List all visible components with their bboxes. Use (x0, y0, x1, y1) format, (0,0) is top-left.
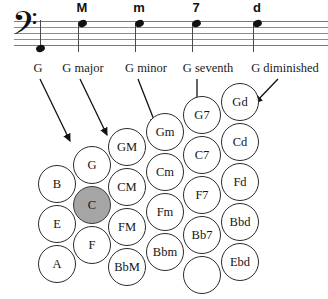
chord-button-bb7[interactable]: Bb7 (183, 216, 221, 254)
chord-button-f[interactable]: F (73, 226, 111, 264)
chord-button-eb7[interactable] (183, 256, 221, 294)
chord-button-cd[interactable]: Cd (221, 123, 259, 161)
accordion-chord-chart: 𝄢 M m 7 d G G major (0, 0, 328, 299)
chord-button-grid: B E A G C F GM CM FM BbM Gm Cm Fm Bbm G7… (0, 0, 328, 299)
chord-button-fd[interactable]: Fd (221, 163, 259, 201)
chord-button-b[interactable]: B (38, 165, 76, 203)
chord-button-bbd[interactable]: Bbd (221, 203, 259, 241)
chord-button-bbm-minor[interactable]: Bbm (146, 233, 184, 271)
chord-button-f7[interactable]: F7 (183, 176, 221, 214)
chord-button-g[interactable]: G (73, 146, 111, 184)
chord-button-c[interactable]: C (73, 186, 111, 224)
chord-button-c7[interactable]: C7 (183, 136, 221, 174)
chord-button-cm-major[interactable]: CM (108, 168, 146, 206)
chord-button-ebd[interactable]: Ebd (221, 243, 259, 281)
chord-button-cm-minor[interactable]: Cm (146, 153, 184, 191)
chord-button-a[interactable]: A (38, 245, 76, 283)
chord-button-e[interactable]: E (38, 205, 76, 243)
chord-button-gm-major[interactable]: GM (108, 128, 146, 166)
chord-button-fm-major[interactable]: FM (108, 208, 146, 246)
chord-button-g7[interactable]: G7 (183, 96, 221, 134)
chord-button-gd[interactable]: Gd (221, 83, 259, 121)
chord-button-gm-minor[interactable]: Gm (146, 113, 184, 151)
chord-button-bbm-major[interactable]: BbM (108, 248, 146, 286)
chord-button-fm-minor[interactable]: Fm (146, 193, 184, 231)
